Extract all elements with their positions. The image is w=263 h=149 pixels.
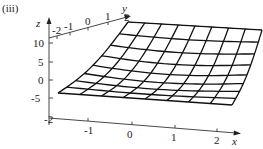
x-tick-1: 1 xyxy=(171,131,177,143)
mesh-line xyxy=(93,65,247,75)
z-axis-label: z xyxy=(35,17,41,29)
surface-plot: (iii) z 10 5 0 -5 y -2 -1 0 1 2 x xyxy=(0,0,263,149)
x-axis-line xyxy=(49,118,236,133)
x-tick-0: 0 xyxy=(127,128,133,140)
mesh-line xyxy=(210,29,245,104)
x-tick-neg2: -2 xyxy=(44,113,53,125)
z-axis-arrow-icon xyxy=(47,17,52,24)
panel-label: (iii) xyxy=(2,2,19,15)
surface-mesh xyxy=(58,22,262,105)
y-axis: y -2 -1 0 1 2 xyxy=(49,2,131,39)
x-axis-label: x xyxy=(231,135,237,147)
z-tick-0: 0 xyxy=(38,74,44,86)
mesh-line xyxy=(128,22,262,30)
y-tick-1: 1 xyxy=(105,10,111,22)
y-tick-2: 2 xyxy=(124,11,130,23)
x-axis: x -2 -1 0 1 2 xyxy=(44,113,241,147)
mesh-line xyxy=(58,93,232,105)
y-tick-neg2: -2 xyxy=(52,24,61,36)
z-axis: z 10 5 0 -5 xyxy=(31,17,53,125)
mesh-line xyxy=(80,23,145,95)
z-tick-5: 5 xyxy=(38,56,44,68)
y-tick-0: 0 xyxy=(85,15,91,27)
x-tick-neg1: -1 xyxy=(84,124,93,136)
mesh-line xyxy=(111,45,255,54)
z-tick-10: 10 xyxy=(33,37,45,49)
mesh-line xyxy=(102,56,251,66)
z-tick-neg5: -5 xyxy=(31,92,41,104)
x-tick-2: 2 xyxy=(214,134,220,146)
y-tick-neg1: -1 xyxy=(64,20,73,32)
